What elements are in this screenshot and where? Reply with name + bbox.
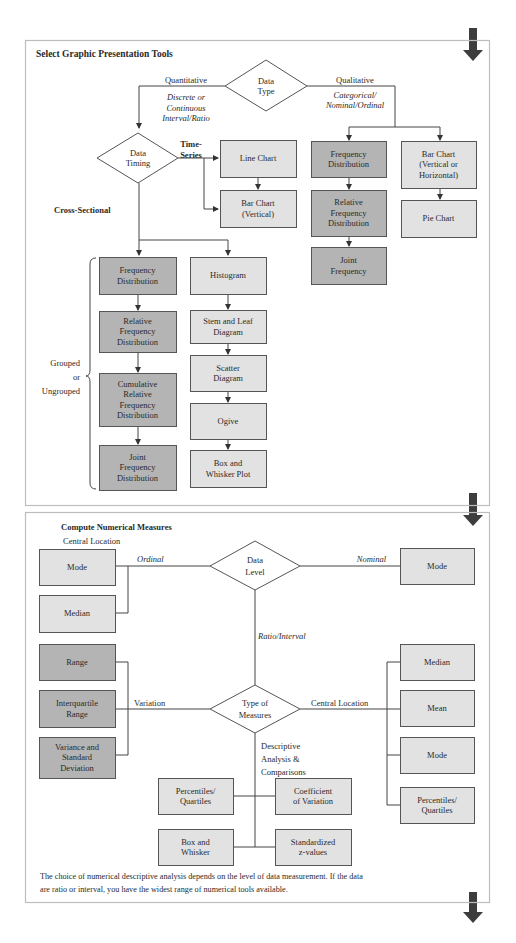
mode-right2-box-line: Mode bbox=[427, 750, 447, 760]
bar-chart-vertical-horizontal-box: Bar Chart(Vertical orHorizontal) bbox=[402, 142, 477, 189]
frequency-distribution-box: FrequencyDistribution bbox=[100, 258, 177, 295]
central-location-subtitle: Central Location bbox=[63, 536, 121, 546]
qual-relative-frequency-distribution-box-line: Frequency bbox=[331, 208, 368, 218]
data-timing-line: Timing bbox=[126, 158, 151, 168]
type-of-measures-line: Type of bbox=[242, 698, 268, 708]
data-type-line: Type bbox=[258, 86, 275, 96]
variance-standard-deviation-box-line: Variance and bbox=[55, 742, 100, 752]
bar-chart-vertical-box-line: Bar Chart bbox=[241, 198, 275, 208]
joint-frequency-distribution-box-line: Joint bbox=[129, 452, 146, 462]
down-arrow-icon bbox=[463, 892, 483, 923]
data-type-line: Data bbox=[258, 76, 274, 86]
box-and-whisker-box-line: Whisker bbox=[181, 847, 210, 857]
data-level-line: Level bbox=[245, 567, 265, 577]
coefficient-of-variation-box: Coefficientof Variation bbox=[276, 779, 352, 815]
time-series-line: Time- bbox=[180, 139, 202, 149]
coefficient-of-variation-box-line: Coefficient bbox=[294, 786, 333, 796]
qual-relative-frequency-distribution-box-line: Relative bbox=[334, 197, 363, 207]
descriptive-label-line: Descriptive bbox=[261, 741, 300, 751]
median-left-box: Median bbox=[40, 596, 116, 633]
mode-right-box: Mode bbox=[401, 549, 475, 585]
frequency-distribution-box-line: Frequency bbox=[120, 265, 157, 275]
pie-chart-box: Pie Chart bbox=[402, 201, 477, 238]
relative-frequency-distribution-box-line: Distribution bbox=[117, 337, 159, 347]
coefficient-of-variation-box-line: of Variation bbox=[293, 796, 334, 806]
scatter-diagram-box-line: Scatter bbox=[216, 363, 240, 373]
note-text-line: The choice of numerical descriptive anal… bbox=[40, 872, 363, 881]
bar-chart-vertical-box: Bar Chart(Vertical) bbox=[221, 191, 297, 228]
qual-joint-frequency-box: JointFrequency bbox=[312, 248, 387, 285]
down-arrow-icon bbox=[463, 493, 483, 526]
box-and-whisker-plot-box-line: Box and bbox=[214, 458, 243, 468]
graphic-tools-title: Select Graphic Presentation Tools bbox=[36, 49, 173, 59]
quantitative-sub-line: Continuous bbox=[166, 103, 206, 113]
grouped-or-ungrouped-line: or bbox=[73, 372, 80, 382]
type-of-measures-line: Measures bbox=[239, 710, 272, 720]
grouped-or-ungrouped-line: Ungrouped bbox=[42, 386, 81, 396]
relative-frequency-distribution-box: RelativeFrequencyDistribution bbox=[100, 312, 177, 353]
percentiles-right-box: Percentiles/Quartiles bbox=[401, 788, 475, 824]
mean-box-line: Mean bbox=[427, 703, 447, 713]
cross-sectional-line: Cross-Sectional bbox=[54, 205, 111, 215]
joint-frequency-distribution-box-line: Frequency bbox=[120, 462, 157, 472]
mode-right2-box: Mode bbox=[401, 738, 475, 774]
joint-frequency-distribution-box-line: Distribution bbox=[117, 473, 159, 483]
joint-frequency-distribution-box: JointFrequencyDistribution bbox=[100, 446, 177, 491]
qual-frequency-distribution-box-line: Frequency bbox=[331, 149, 368, 159]
stem-and-leaf-box: Stem and LeafDiagram bbox=[191, 311, 267, 344]
cumulative-relative-frequency-distribution-box-line: Frequency bbox=[120, 400, 157, 410]
mode-left-box: Mode bbox=[40, 550, 116, 586]
qual-relative-frequency-distribution-box-line: Distribution bbox=[328, 218, 370, 228]
quantitative-line: Quantitative bbox=[165, 75, 207, 85]
line-chart-box: Line Chart bbox=[221, 141, 297, 178]
note-text-line: are ratio or interval, you have the wide… bbox=[40, 885, 288, 894]
central-location-label-line: Central Location bbox=[311, 698, 369, 708]
nominal-label-line: Nominal bbox=[356, 554, 387, 564]
qualitative-sub-line: Nominal/Ordinal bbox=[325, 100, 385, 110]
percentiles-right-box-line: Percentiles/ bbox=[417, 795, 457, 805]
down-arrow-icon bbox=[463, 28, 483, 61]
relative-frequency-distribution-box-line: Relative bbox=[123, 316, 152, 326]
percentiles-right-box-line: Quartiles bbox=[421, 805, 452, 815]
box-and-whisker-box: Box andWhisker bbox=[159, 830, 234, 866]
mode-left-box-line: Mode bbox=[67, 562, 87, 572]
frequency-distribution-box-line: Distribution bbox=[117, 276, 159, 286]
quantitative-sub-line: Discrete or bbox=[166, 92, 206, 102]
range-box-line: Range bbox=[66, 657, 88, 667]
variance-standard-deviation-box-line: Standard bbox=[62, 752, 93, 762]
mean-box: Mean bbox=[401, 691, 475, 727]
ratio-interval-label-line: Ratio/Interval bbox=[257, 631, 306, 641]
interquartile-range-box-line: Range bbox=[66, 709, 88, 719]
descriptive-label-line: Analysis & bbox=[261, 754, 300, 764]
flowchart: Select Graphic Presentation Tools bbox=[0, 0, 516, 943]
line-chart-box-line: Line Chart bbox=[240, 153, 277, 163]
cumulative-relative-frequency-distribution-box-line: Cumulative bbox=[118, 379, 158, 389]
data-level-line: Data bbox=[247, 555, 263, 565]
cumulative-relative-frequency-distribution-box: CumulativeRelativeFrequencyDistribution bbox=[100, 374, 177, 427]
percentiles-mid-box-line: Percentiles/ bbox=[176, 786, 216, 796]
qual-joint-frequency-box-line: Frequency bbox=[331, 266, 368, 276]
qualitative-line: Qualitative bbox=[336, 75, 374, 85]
stem-and-leaf-box-line: Stem and Leaf bbox=[203, 316, 253, 326]
pie-chart-box-line: Pie Chart bbox=[423, 213, 456, 223]
grouped-or-ungrouped-line: Grouped bbox=[50, 358, 80, 368]
percentiles-mid-box: Percentiles/Quartiles bbox=[159, 779, 234, 815]
percentiles-mid-box-line: Quartiles bbox=[180, 796, 211, 806]
scatter-diagram-box: ScatterDiagram bbox=[191, 356, 267, 392]
cumulative-relative-frequency-distribution-box-line: Relative bbox=[123, 389, 152, 399]
ogive-box-line: Ogive bbox=[218, 416, 239, 426]
box-and-whisker-plot-box: Box andWhisker Plot bbox=[191, 451, 267, 488]
histogram-box: Histogram bbox=[191, 258, 267, 295]
bar-chart-vertical-box-line: (Vertical) bbox=[242, 209, 274, 219]
mode-right-box-line: Mode bbox=[427, 561, 447, 571]
numerical-measures-title: Compute Numerical Measures bbox=[61, 522, 172, 532]
median-left-box-line: Median bbox=[64, 608, 91, 618]
range-box: Range bbox=[40, 645, 116, 681]
data-timing-line: Data bbox=[130, 148, 146, 158]
histogram-box-line: Histogram bbox=[210, 270, 246, 280]
cumulative-relative-frequency-distribution-box-line: Distribution bbox=[117, 410, 159, 420]
qual-frequency-distribution-box-line: Distribution bbox=[328, 159, 370, 169]
quantitative-sub-line: Interval/Ratio bbox=[161, 113, 210, 123]
bar-chart-vertical-horizontal-box-line: Bar Chart bbox=[422, 149, 456, 159]
qual-joint-frequency-box-line: Joint bbox=[340, 255, 357, 265]
